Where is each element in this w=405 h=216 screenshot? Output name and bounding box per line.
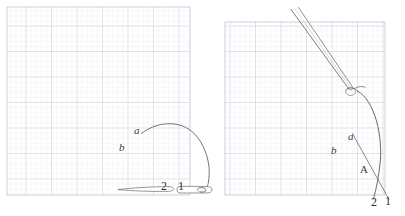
panel-left: a b 2 1 <box>7 7 212 195</box>
label-b-right: b <box>331 144 337 156</box>
grid-left <box>7 7 190 195</box>
label-2-right: 2 <box>371 195 377 209</box>
label-1-right: 1 <box>385 194 391 208</box>
label-1-left: 1 <box>178 179 184 193</box>
label-A-right: A <box>360 163 368 175</box>
panel-right: a b A 2 1 <box>225 8 391 210</box>
label-a-left: a <box>134 124 140 136</box>
label-b-left: b <box>119 141 125 153</box>
figure-canvas: a b 2 1 <box>0 0 405 216</box>
label-a-right: a <box>348 130 354 142</box>
label-2-left: 2 <box>161 179 167 193</box>
figure-root: a b 2 1 <box>0 0 405 216</box>
